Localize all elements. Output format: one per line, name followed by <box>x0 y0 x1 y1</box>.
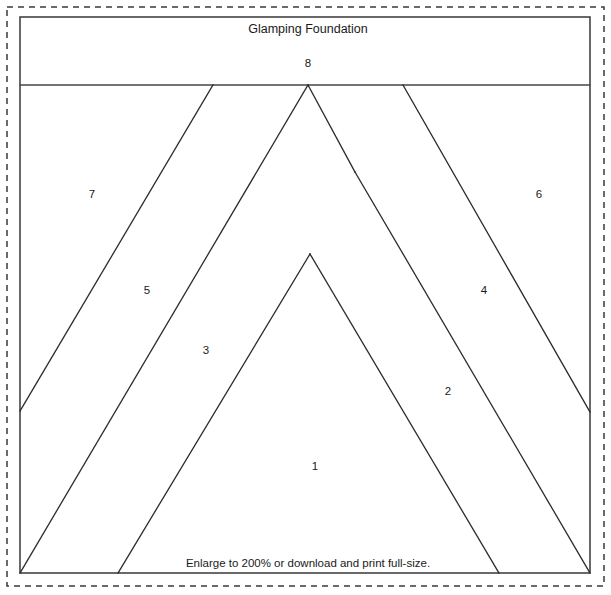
piece-number-label: 5 <box>144 284 150 296</box>
print-instruction-note: Enlarge to 200% or download and print fu… <box>186 557 430 569</box>
piece-number-label: 8 <box>305 57 311 69</box>
piece-number-label: 4 <box>481 284 488 296</box>
piece-number-label: 6 <box>536 188 542 200</box>
foundation-pattern-canvas: Glamping Foundation 1 2 3 4 5 6 7 8 Enla… <box>0 0 611 595</box>
piece-number-label: 2 <box>445 385 451 397</box>
pattern-document: Glamping Foundation 1 2 3 4 5 6 7 8 Enla… <box>0 0 611 595</box>
piece-number-label: 7 <box>89 188 95 200</box>
piece-number-label: 1 <box>312 460 318 472</box>
pattern-title: Glamping Foundation <box>248 22 368 36</box>
pattern-outer-border <box>20 17 590 573</box>
piece-number-label: 3 <box>203 344 209 356</box>
